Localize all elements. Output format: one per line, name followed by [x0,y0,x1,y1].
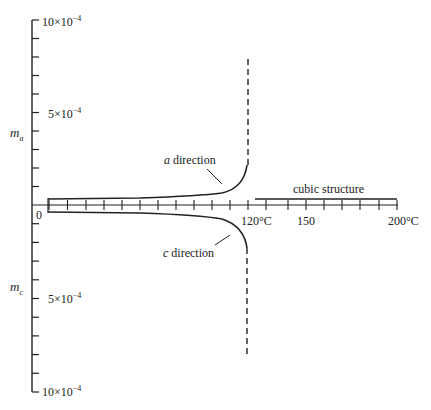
cubic-structure-label: cubic structure [293,183,364,195]
y-bottom-max-label: 10×10−4 [42,385,81,398]
m-a-label: ma [10,126,23,143]
m-c-sub: c [19,288,23,297]
c-direction-curve [48,212,247,248]
y-bottom-mid-exp: −4 [73,291,82,300]
y-top-mid-text: 5×10 [48,107,73,121]
y-bottom-mid-text: 5×10 [48,292,73,306]
y-ticks-top [32,39,39,187]
x-120-label: 120°C [241,215,272,227]
m-a-sub: a [19,134,23,143]
m-c-text: m [10,279,19,294]
m-c-label: mc [10,280,23,297]
y-bottom-mid-label: 5×10−4 [48,292,81,305]
c-direction-pointer [215,235,230,245]
y-top-max-label: 10×10−4 [42,15,81,28]
y-top-max-text: 10×10 [42,15,73,29]
a-direction-pointer [207,169,222,184]
x-zero-label: 0 [36,209,42,221]
y-bottom-max-text: 10×10 [42,385,73,399]
chart-figure [0,0,431,410]
a-direction-rest: direction [170,153,216,167]
y-bottom-max-exp: −4 [73,384,82,393]
c-direction-rest: direction [168,246,214,260]
m-a-text: m [10,125,19,140]
y-top-mid-exp: −4 [73,106,82,115]
x-200-label: 200°C [388,215,419,227]
a-direction-curve [48,165,247,199]
x-150-label: 150 [297,215,315,227]
a-direction-label: a direction [164,154,216,166]
y-ticks-bottom [32,224,39,374]
y-top-max-exp: −4 [73,14,82,23]
y-top-mid-label: 5×10−4 [48,107,81,120]
c-direction-label: c direction [163,247,214,259]
